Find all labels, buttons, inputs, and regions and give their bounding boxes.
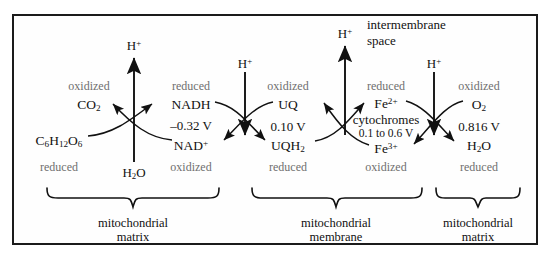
species-nad-plus: NAD+ [174,139,208,153]
carrier-cytochromes: cytochromes [353,113,419,126]
species-o2: O2 [472,98,486,113]
state-oxidized-co2: oxidized [68,80,109,92]
brace-left-line1: mitochondrial [98,216,168,230]
proton-label-2: H+ [238,57,252,70]
species-uqh2: UQH2 [271,139,305,154]
species-co2: CO2 [77,98,100,113]
proton-label-3: H+ [338,27,352,40]
potential-nad: –0.32 V [170,119,212,132]
state-reduced-nadh: reduced [172,80,210,92]
brace-mid-line2: membrane [301,230,371,244]
brace-label-matrix-right: mitochondrial matrix [443,216,513,244]
brace-label-matrix-left: mitochondrial matrix [98,216,168,244]
intermembrane-space-line1: intermembrane [367,18,446,31]
potential-uq: 0.10 V [270,120,305,133]
state-oxidized-uq: oxidized [267,80,308,92]
species-nadh: NADH [172,98,211,112]
potential-oxygen: 0.816 V [458,120,500,133]
species-water-product: H2O [467,139,491,154]
state-reduced-water: reduced [460,161,498,173]
brace-label-membrane: mitochondrial membrane [301,216,371,244]
state-reduced-fe2: reduced [367,80,405,92]
brace-left-line2: matrix [98,230,168,244]
state-oxidized-fe3: oxidized [365,161,406,173]
proton-label-4: H+ [427,57,441,70]
species-water-matrix: H2O [122,166,145,181]
species-fe2: Fe2+ [374,97,397,111]
brace-right-line1: mitochondrial [443,216,513,230]
species-glucose: C6H12O6 [36,134,83,149]
state-oxidized-nad: oxidized [170,161,211,173]
species-uq: UQ [278,98,298,112]
brace-mid-line1: mitochondrial [301,216,371,230]
brace-right-line2: matrix [443,230,513,244]
state-reduced-uqh2: reduced [269,161,307,173]
proton-label-1: H+ [127,39,141,52]
intermembrane-space-line2: space [367,34,396,47]
potential-cytochromes: 0.1 to 0.6 V [359,128,413,140]
species-fe3: Fe3+ [374,142,397,156]
state-reduced-glucose: reduced [40,161,78,173]
state-oxidized-o2: oxidized [458,80,499,92]
